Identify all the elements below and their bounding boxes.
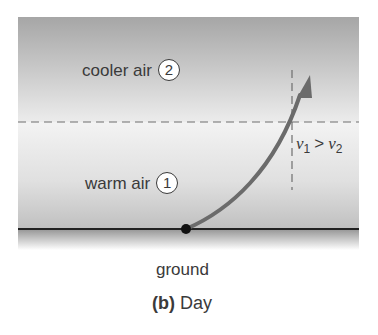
wind-gradient-diagram: cooler air2 warm air1 v1>v2 ground (b) D… — [0, 0, 378, 335]
caption-text: Day — [180, 293, 212, 313]
figure-caption: (b) Day — [152, 293, 212, 314]
caption-letter: (b) — [152, 293, 175, 313]
layer-number-2: 2 — [158, 59, 180, 81]
ground-label: ground — [156, 260, 209, 280]
source-dot — [181, 224, 191, 234]
warm-air-label: warm air1 — [85, 174, 178, 196]
layer-number-1: 1 — [156, 172, 178, 194]
cooler-air-layer — [18, 17, 359, 122]
cooler-air-label: cooler air2 — [82, 61, 180, 83]
diagram-graphics — [0, 0, 378, 335]
velocity-relation: v1>v2 — [296, 134, 342, 156]
